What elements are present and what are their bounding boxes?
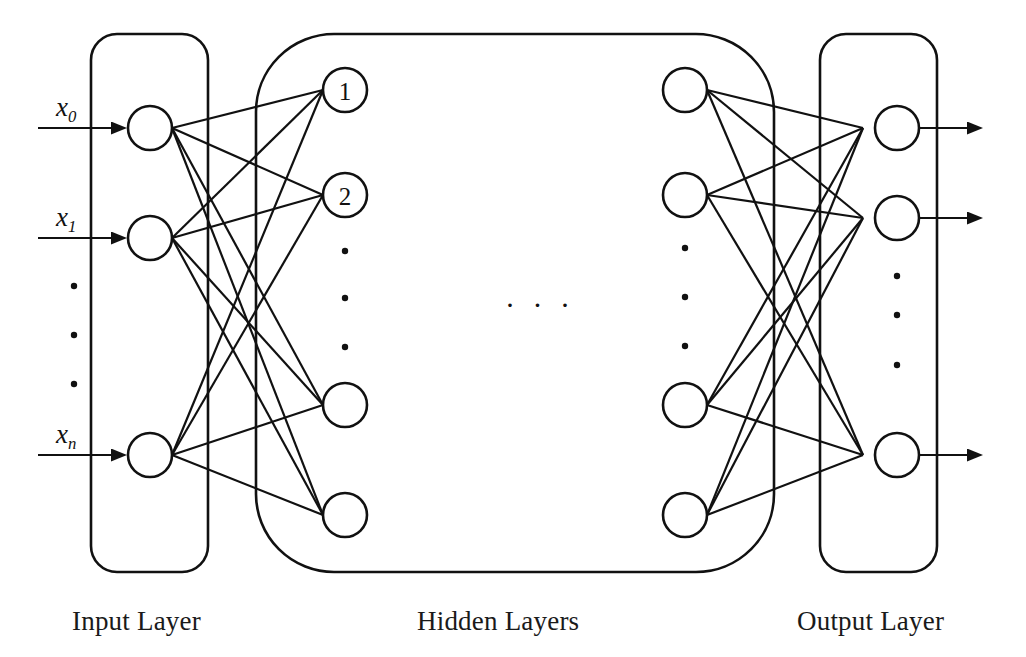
input-label-x1: x1: [56, 202, 76, 237]
input-node-1: [128, 106, 172, 150]
hidden2-node-k2: [663, 493, 707, 537]
input-layer-vertical-ellipsis: [71, 283, 77, 387]
hidden2-node-2: [663, 173, 707, 217]
hidden-node-k2: [323, 493, 367, 537]
caption-output-layer: Output Layer: [797, 606, 944, 637]
input-label-xn-sub: n: [68, 434, 76, 453]
output-layer-nodes: [875, 106, 919, 477]
hidden-node-1-label: 1: [339, 78, 352, 105]
input-label-x0-base: x: [56, 92, 68, 122]
input-label-x1-base: x: [56, 202, 68, 232]
output-node-m: [875, 433, 919, 477]
input-label-x0-sub: 0: [68, 107, 76, 126]
output-layer-vertical-ellipsis: [894, 273, 900, 368]
caption-input-layer: Input Layer: [72, 606, 201, 637]
output-arrows: [919, 128, 968, 455]
input-layer-nodes: [128, 106, 172, 477]
diagram-canvas: 1 2: [0, 0, 1026, 657]
hidden-column-1-nodes: 1 2: [323, 68, 367, 537]
hidden2-node-k1: [663, 383, 707, 427]
edges-input-to-hidden1: [172, 90, 323, 515]
input-label-x1-sub: 1: [68, 217, 76, 236]
input-label-x0: x0: [56, 92, 76, 127]
hidden-node-2-label: 2: [339, 183, 352, 210]
hidden-column-2-vertical-ellipsis: [682, 245, 688, 349]
hidden2-node-1: [663, 68, 707, 112]
input-label-xn: xn: [56, 419, 76, 454]
neural-network-diagram: 1 2: [0, 0, 1026, 657]
hidden-layers-horizontal-ellipsis: · · ·: [505, 288, 575, 322]
caption-hidden-layers: Hidden Layers: [417, 606, 579, 637]
hidden-node-k1: [323, 383, 367, 427]
hidden-column-1-vertical-ellipsis: [342, 248, 348, 350]
edges-hidden2-to-output: [707, 90, 863, 515]
input-node-n: [128, 433, 172, 477]
input-node-2: [128, 216, 172, 260]
input-arrows: [38, 128, 112, 455]
input-label-xn-base: x: [56, 419, 68, 449]
output-node-2: [875, 196, 919, 240]
hidden-column-2-nodes: [663, 68, 707, 537]
output-node-1: [875, 106, 919, 150]
